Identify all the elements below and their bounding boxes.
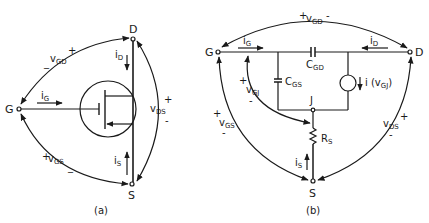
cgd-label: CGD <box>306 59 324 72</box>
source-terminal-b <box>311 179 315 183</box>
vgd-label-b: vGD <box>306 13 323 26</box>
vgs-minus: _ <box>67 161 74 173</box>
vds-plus-b: + <box>400 111 408 122</box>
gate-terminal <box>17 107 21 111</box>
ig-label-b: iG <box>243 35 251 48</box>
vgs-label: vGS <box>48 153 64 166</box>
rs-label: RS <box>321 133 333 146</box>
rs-resistor <box>310 128 316 144</box>
vds-arc-b <box>318 57 411 180</box>
ig-label: iG <box>41 90 49 103</box>
caption-b: (b) <box>306 205 320 216</box>
vds-plus: + <box>164 94 172 105</box>
vgd-minus-b: - <box>326 10 330 21</box>
mosfet-diagram: G D S iG iD iS + _ vGD + vGS _ vDS + - (… <box>0 0 429 223</box>
figure-b-labels: G D S J iG iD iS CGD CGS RS i (vGJ) + vG… <box>205 10 423 216</box>
gate-label: G <box>5 103 14 116</box>
id-label: iD <box>115 49 123 62</box>
gate-terminal-b <box>216 50 220 54</box>
figure-a <box>17 37 159 186</box>
vgd-minus: _ <box>43 57 50 69</box>
drain-label: D <box>129 23 137 36</box>
drain-terminal-b <box>408 50 412 54</box>
drain-terminal <box>131 37 135 41</box>
figure-a-labels: G D S iG iD iS + _ vGD + vGS _ vDS + - (… <box>5 23 172 216</box>
drain-label-b: D <box>415 46 423 59</box>
is-label: iS <box>114 155 122 168</box>
id-label-b: iD <box>370 35 378 48</box>
j-label: J <box>309 95 313 106</box>
vgd-plus: + <box>68 45 76 56</box>
current-source-circle <box>340 75 356 91</box>
vgs-minus-b: - <box>222 127 226 138</box>
current-source-label: i (vGJ) <box>365 77 392 90</box>
is-label-b: iS <box>295 157 303 170</box>
source-label-b: S <box>309 187 316 200</box>
cgs-label: CGS <box>285 76 302 89</box>
source-label: S <box>128 189 135 202</box>
vgj-label: vGJ <box>246 84 259 97</box>
j-node <box>311 108 315 112</box>
vgj-minus: - <box>249 95 253 106</box>
vds-minus-b: - <box>389 129 393 140</box>
gate-label-b: G <box>205 46 214 59</box>
caption-a: (a) <box>94 205 108 216</box>
source-terminal <box>130 182 134 186</box>
vgd-label: vGD <box>50 53 67 66</box>
vds-minus: - <box>165 115 169 126</box>
